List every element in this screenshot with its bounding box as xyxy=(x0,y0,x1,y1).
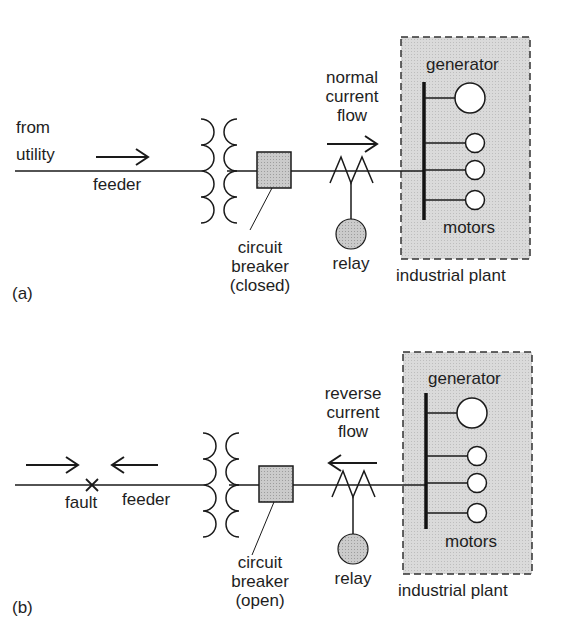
reverse-flow-arrow-icon xyxy=(329,455,377,471)
fault-label: fault xyxy=(65,493,97,512)
breaker-label-line2: breaker xyxy=(210,572,310,591)
motor-icon xyxy=(468,447,487,466)
utility-label: utility xyxy=(16,145,55,164)
current-transformer-icon xyxy=(332,471,375,497)
breaker-leader-line xyxy=(250,188,272,230)
breaker-state-label: (closed) xyxy=(210,276,310,295)
panel-a-tag: (a) xyxy=(12,284,33,303)
relay-icon xyxy=(338,534,368,564)
flow-label-line3: flow xyxy=(320,422,386,441)
motor-icon xyxy=(466,161,485,180)
from-label: from xyxy=(16,118,50,137)
feeder-label: feeder xyxy=(122,490,170,509)
relay-icon xyxy=(336,219,366,249)
generator-label: generator xyxy=(428,369,501,388)
flow-label-line3: flow xyxy=(320,106,384,125)
motor-icon xyxy=(468,474,487,493)
motors-label: motors xyxy=(443,218,495,237)
relay-label: relay xyxy=(321,254,381,273)
motor-icon xyxy=(466,191,485,210)
relay-label: relay xyxy=(323,569,383,588)
motor-icon xyxy=(468,504,487,523)
circuit-breaker-closed xyxy=(257,152,291,188)
arrow-right-icon xyxy=(96,149,148,165)
breaker-leader-line xyxy=(252,502,274,555)
breaker-label-line1: circuit xyxy=(215,238,305,257)
arrow-left-icon xyxy=(112,457,158,473)
flow-label-line2: current xyxy=(320,87,384,106)
motors-label: motors xyxy=(445,532,497,551)
circuit-breaker-open xyxy=(259,466,293,502)
generator-icon xyxy=(457,398,487,428)
flow-label-line1: reverse xyxy=(320,384,386,403)
current-transformer-icon xyxy=(330,157,373,183)
generator-label: generator xyxy=(426,55,499,74)
breaker-label-line2: breaker xyxy=(210,257,310,276)
flow-label-line2: current xyxy=(320,403,386,422)
generator-icon xyxy=(455,83,485,113)
normal-flow-arrow-icon xyxy=(327,136,377,152)
feeder-label: feeder xyxy=(93,175,141,194)
industrial-plant-label: industrial plant xyxy=(398,581,508,600)
arrow-right-icon xyxy=(26,457,78,473)
flow-label-line1: normal xyxy=(320,68,384,87)
breaker-label-line1: circuit xyxy=(215,553,305,572)
breaker-state-label: (open) xyxy=(210,591,310,610)
motor-icon xyxy=(466,134,485,153)
panel-b-tag: (b) xyxy=(12,598,33,617)
industrial-plant-label: industrial plant xyxy=(396,266,506,285)
